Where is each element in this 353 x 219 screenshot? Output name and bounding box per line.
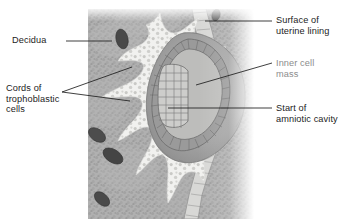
edge-fade-top	[88, 9, 254, 21]
label-surface-of-uterine-lining: Surface of uterine lining	[276, 15, 330, 36]
label-decidua: Decidua	[12, 35, 46, 46]
label-cords-of-trophoblastic-cells: Cords of trophoblastic cells	[6, 83, 59, 115]
label-inner-cell-mass: Inner cell mass	[276, 58, 314, 79]
histology-svg	[88, 9, 254, 219]
label-start-of-amniotic-cavity: Start of amniotic cavity	[276, 103, 338, 124]
edge-fade-right	[198, 9, 254, 219]
inner-cell-mass	[158, 64, 188, 128]
tissue-block-illustration	[88, 9, 254, 219]
figure-canvas: Decidua Cords of trophoblastic cells Sur…	[0, 0, 353, 219]
